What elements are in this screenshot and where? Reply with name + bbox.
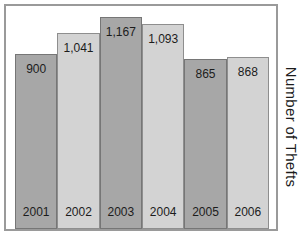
bar-2006: 8682006	[227, 57, 269, 229]
bar-year-label: 2004	[143, 206, 183, 218]
bar-value-label: 900	[16, 63, 56, 75]
bar-year-label: 2001	[16, 206, 56, 218]
bars-container: 90020011,04120021,16720031,0932004865200…	[15, 6, 269, 229]
bar-2004: 1,0932004	[142, 24, 184, 229]
bar-year-label: 2006	[228, 206, 268, 218]
bar-value-label: 868	[228, 66, 268, 78]
bar-year-label: 2003	[101, 206, 141, 218]
y-axis-title: Number of Thefts	[283, 67, 300, 187]
chart-frame: 90020011,04120021,16720031,0932004865200…	[4, 4, 278, 231]
bar-value-label: 865	[185, 68, 225, 80]
bar-2002: 1,0412002	[57, 33, 99, 229]
bar-year-label: 2005	[185, 206, 225, 218]
bar-2005: 8652005	[184, 59, 226, 229]
bar-2003: 1,1672003	[100, 17, 142, 229]
figure: 90020011,04120021,16720031,0932004865200…	[0, 0, 304, 238]
bar-2001: 9002001	[15, 54, 57, 229]
bar-value-label: 1,093	[143, 33, 183, 45]
bar-year-label: 2002	[58, 206, 98, 218]
bar-value-label: 1,167	[101, 26, 141, 38]
bar-value-label: 1,041	[58, 42, 98, 54]
